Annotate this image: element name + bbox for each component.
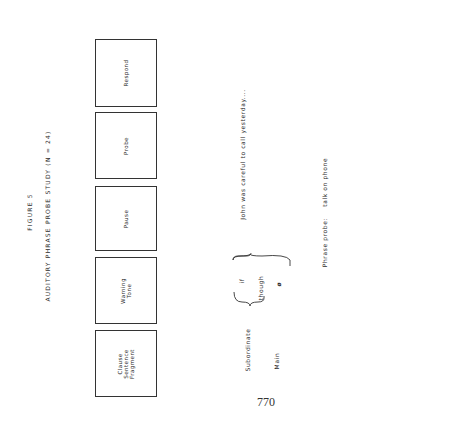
brace-icon [230,250,294,310]
phrase-probe: Phrase probe: talk on phone [320,143,329,283]
box-respond-label: Respond [123,60,129,87]
box-probe: Probe [95,112,157,179]
box-warning-tone: Warning Tone [95,257,157,324]
box-clause-sentence-fragment: Clause Sentence Fragment [95,330,157,397]
figure-title: AUDITORY PHRASE PROBE STUDY (N = 24) [44,116,52,316]
box-clause-sentence-fragment-label: Clause Sentence Fragment [117,349,135,379]
box-respond: Respond [95,39,157,107]
box-probe-label: Probe [123,137,129,155]
subordinate-label: Subordinate [244,320,252,380]
page-number: 770 [257,395,275,410]
example-sentence: John was careful to call yesterday.... [238,70,247,240]
figure-label: FIGURE 5 [26,182,34,242]
phrase-probe-value: talk on phone [321,158,328,207]
box-pause-label: Pause [123,209,129,227]
box-pause: Pause [95,186,157,251]
box-warning-tone-label: Warning Tone [120,278,132,304]
phrase-probe-label: Phrase probe: [321,218,328,267]
main-label: Main [273,346,281,376]
